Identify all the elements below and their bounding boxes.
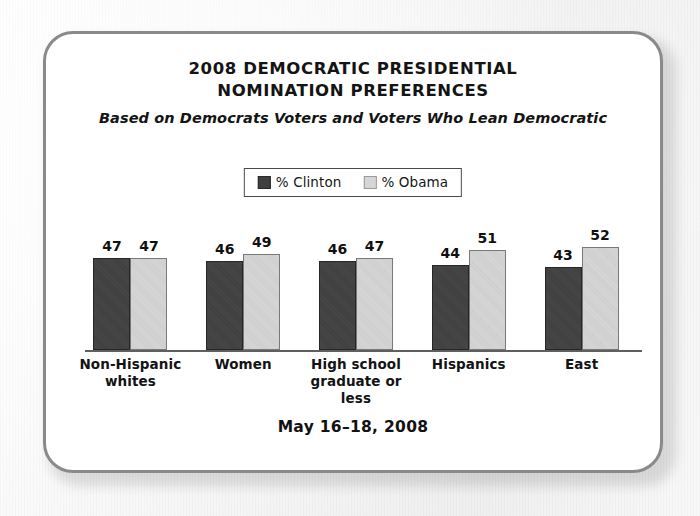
category-label: East — [525, 356, 638, 407]
bar-pair: 4352 — [545, 230, 619, 350]
bar-group: 4647 — [300, 230, 413, 350]
bar-value-label: 47 — [130, 238, 167, 254]
bar-obama[interactable] — [469, 250, 506, 350]
bar-clinton[interactable] — [93, 258, 130, 350]
bar-value-label: 44 — [432, 245, 469, 261]
bar-pair: 4747 — [93, 230, 167, 350]
category-label: Non-Hispanicwhites — [74, 356, 187, 407]
bar-value-label: 47 — [93, 238, 130, 254]
bar-group: 4451 — [412, 230, 525, 350]
bar-column: 52 — [582, 247, 619, 350]
bar-value-label: 46 — [319, 241, 356, 257]
bar-group: 4352 — [525, 230, 638, 350]
category-label: High schoolgraduate or less — [300, 356, 413, 407]
bar-value-label: 51 — [469, 230, 506, 246]
bar-value-label: 46 — [206, 241, 243, 257]
category-label: Women — [187, 356, 300, 407]
category-label-line: East — [525, 356, 638, 373]
bar-clinton[interactable] — [432, 265, 469, 350]
chart-subtitle: Based on Democrats Voters and Voters Who… — [46, 110, 660, 126]
legend-swatch-clinton-icon — [258, 176, 271, 189]
bar-obama[interactable] — [130, 258, 167, 350]
bar-group: 4649 — [187, 230, 300, 350]
category-label-line: High school — [300, 356, 413, 373]
bar-obama[interactable] — [582, 247, 619, 350]
bar-column: 47 — [356, 258, 393, 350]
legend-label-obama: % Obama — [381, 174, 448, 190]
legend-item-obama: % Obama — [363, 174, 448, 190]
bar-clinton[interactable] — [206, 261, 243, 350]
category-label-line: whites — [74, 373, 187, 390]
chart-card: 2008 DEMOCRATIC PRESIDENTIAL NOMINATION … — [43, 31, 663, 473]
bar-column: 47 — [130, 258, 167, 350]
legend-item-clinton: % Clinton — [258, 174, 342, 190]
chart-title-line-1: 2008 DEMOCRATIC PRESIDENTIAL — [46, 58, 660, 80]
bar-group: 4747 — [74, 230, 187, 350]
legend-label-clinton: % Clinton — [276, 174, 342, 190]
bar-column: 43 — [545, 267, 582, 350]
bar-clinton[interactable] — [545, 267, 582, 350]
category-axis-labels: Non-HispanicwhitesWomenHigh schoolgradua… — [74, 356, 638, 407]
bar-pair: 4451 — [432, 230, 506, 350]
category-label-line: Women — [187, 356, 300, 373]
bar-clinton[interactable] — [319, 261, 356, 350]
bar-column: 47 — [93, 258, 130, 350]
chart-title-line-2: NOMINATION PREFERENCES — [46, 80, 660, 102]
bar-column: 46 — [206, 261, 243, 350]
bar-pair: 4647 — [319, 230, 393, 350]
bar-column: 49 — [243, 254, 280, 350]
category-label-line: graduate or less — [300, 373, 413, 407]
bar-column: 46 — [319, 261, 356, 350]
chart-header: 2008 DEMOCRATIC PRESIDENTIAL NOMINATION … — [46, 58, 660, 126]
category-label: Hispanics — [412, 356, 525, 407]
x-axis-line — [85, 350, 642, 352]
bar-column: 44 — [432, 265, 469, 350]
bar-value-label: 52 — [582, 227, 619, 243]
bar-obama[interactable] — [243, 254, 280, 350]
category-label-line: Hispanics — [412, 356, 525, 373]
chart-footer-date: May 16–18, 2008 — [46, 418, 660, 436]
bar-groups: 47474649464744514352 — [74, 230, 638, 350]
bar-value-label: 47 — [356, 238, 393, 254]
chart-legend: % Clinton % Obama — [244, 168, 462, 197]
plot-area: 47474649464744514352 — [74, 230, 638, 352]
bar-pair: 4649 — [206, 230, 280, 350]
bar-column: 51 — [469, 250, 506, 350]
legend-swatch-obama-icon — [363, 176, 376, 189]
category-label-line: Non-Hispanic — [74, 356, 187, 373]
bar-value-label: 49 — [243, 234, 280, 250]
bar-value-label: 43 — [545, 247, 582, 263]
bar-obama[interactable] — [356, 258, 393, 350]
